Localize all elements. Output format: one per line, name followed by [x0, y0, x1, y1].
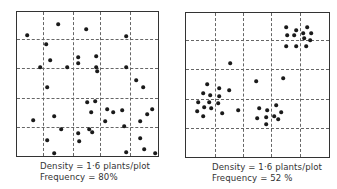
plant-dot — [124, 150, 128, 154]
plot-random — [16, 11, 159, 157]
plant-dot — [138, 119, 142, 123]
plant-dot — [236, 108, 240, 112]
plant-dot — [272, 114, 276, 118]
plant-dot — [31, 118, 35, 122]
plant-dot — [228, 61, 232, 65]
plant-dot — [285, 33, 289, 37]
grid-line-horizontal — [186, 128, 329, 129]
plant-dot — [279, 110, 283, 114]
plant-dot — [134, 78, 138, 82]
right-density-label: Density = 1·6 plants/plot — [212, 162, 322, 173]
plant-dot — [52, 114, 56, 118]
plant-dot — [227, 88, 231, 92]
grid-line-vertical — [43, 12, 44, 156]
plant-dot — [301, 31, 305, 35]
grid-line-vertical — [130, 12, 131, 156]
plant-dot — [93, 99, 97, 103]
plant-dot — [122, 124, 126, 128]
plant-dot — [265, 108, 269, 112]
plant-dot — [124, 34, 128, 38]
plant-dot — [44, 42, 48, 46]
plant-dot — [294, 44, 298, 48]
grid-line-horizontal — [17, 98, 158, 99]
plant-dot — [309, 31, 313, 35]
plant-dot — [103, 119, 107, 123]
right-frequency-label: Frequency = 52 % — [212, 173, 322, 184]
plant-dot — [141, 85, 145, 89]
plant-dot — [284, 25, 288, 29]
plant-dot — [95, 69, 99, 73]
plant-dot — [255, 116, 259, 120]
plant-dot — [153, 151, 157, 155]
plant-dot — [90, 130, 94, 134]
grid-line-horizontal — [186, 69, 329, 70]
plant-dot — [94, 54, 98, 58]
grid-line-vertical — [215, 13, 216, 157]
plant-dot — [308, 38, 312, 42]
plant-dot — [145, 112, 149, 116]
plant-dot — [217, 86, 221, 90]
plant-dot — [120, 108, 124, 112]
plant-dot — [111, 110, 115, 114]
plant-dot — [142, 147, 146, 151]
plant-dot — [205, 82, 209, 86]
plant-dot — [65, 65, 69, 69]
plant-dot — [196, 100, 200, 104]
plant-dot — [138, 136, 142, 140]
plant-dot — [284, 44, 288, 48]
plant-dot — [25, 33, 29, 37]
plant-dot — [52, 151, 56, 155]
plant-dot — [209, 106, 213, 110]
plant-dot — [84, 27, 88, 31]
plant-dot — [195, 109, 199, 113]
plant-dot — [45, 138, 49, 142]
plant-dot — [274, 103, 278, 107]
plant-dot — [302, 36, 306, 40]
plant-dot — [76, 61, 80, 65]
plant-dot — [85, 100, 89, 104]
plant-dot — [208, 93, 212, 97]
plant-dot — [264, 122, 268, 126]
plant-dot — [257, 106, 261, 110]
plant-dot — [59, 127, 63, 131]
plant-dot — [48, 58, 52, 62]
plant-dot — [105, 107, 109, 111]
plant-dot — [254, 79, 258, 83]
grid-line-vertical — [271, 13, 272, 157]
plant-dot — [38, 65, 42, 69]
left-frequency-label: Frequency = 80% — [40, 172, 150, 183]
plant-dot — [45, 85, 49, 89]
grid-line-vertical — [100, 12, 101, 156]
plant-dot — [276, 117, 280, 121]
plant-dot — [294, 28, 298, 32]
plant-dot — [305, 25, 309, 29]
plant-dot — [292, 33, 296, 37]
plant-dot — [216, 101, 220, 105]
left-caption: Density = 1·6 plants/plot Frequency = 80… — [40, 161, 150, 182]
plant-dot — [304, 44, 308, 48]
plant-dot — [281, 76, 285, 80]
right-caption: Density = 1·6 plants/plot Frequency = 52… — [212, 162, 322, 183]
plant-dot — [220, 111, 224, 115]
plant-dot — [217, 94, 221, 98]
plant-dot — [202, 105, 206, 109]
plant-dot — [89, 110, 93, 114]
plot-clumped — [185, 12, 330, 158]
plant-dot — [264, 115, 268, 119]
left-density-label: Density = 1·6 plants/plot — [40, 161, 150, 172]
plant-dot — [76, 55, 80, 59]
plant-dot — [201, 91, 205, 95]
plant-dot — [207, 100, 211, 104]
grid-line-vertical — [243, 13, 244, 157]
grid-line-vertical — [73, 12, 74, 156]
plant-dot — [124, 65, 128, 69]
plant-dot — [150, 107, 154, 111]
plant-dot — [77, 139, 81, 143]
plant-dot — [56, 22, 60, 26]
grid-line-horizontal — [17, 39, 158, 40]
plant-dot — [201, 114, 205, 118]
plant-dot — [76, 131, 80, 135]
